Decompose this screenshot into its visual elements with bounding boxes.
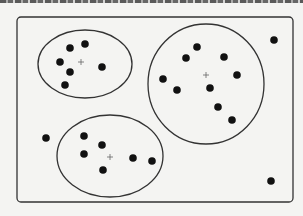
- data-point: [80, 132, 88, 140]
- data-point: [173, 86, 181, 94]
- data-point: [159, 75, 167, 83]
- diagram-frame: [17, 17, 293, 202]
- outliers-group: [42, 36, 278, 185]
- data-point: [228, 116, 236, 124]
- data-point: [220, 53, 228, 61]
- centroid-plus-icon: [203, 72, 209, 78]
- cluster-boundary: [148, 24, 264, 144]
- data-point: [56, 58, 64, 66]
- data-point: [61, 81, 69, 89]
- clusters-group: [38, 24, 264, 197]
- data-point: [206, 84, 214, 92]
- outlier-point: [270, 36, 278, 44]
- centroid-plus-icon: [107, 154, 113, 160]
- data-point: [99, 166, 107, 174]
- data-point: [81, 40, 89, 48]
- cluster-right: [148, 24, 264, 144]
- data-point: [193, 43, 201, 51]
- outlier-point: [267, 177, 275, 185]
- data-point: [66, 44, 74, 52]
- data-point: [214, 103, 222, 111]
- data-point: [98, 63, 106, 71]
- cluster-top-left: [38, 30, 132, 98]
- data-point: [148, 157, 156, 165]
- data-point: [98, 141, 106, 149]
- centroid-plus-icon: [78, 59, 84, 65]
- data-point: [80, 150, 88, 158]
- data-point: [182, 54, 190, 62]
- clustering-diagram: [0, 0, 303, 216]
- data-point: [129, 154, 137, 162]
- outlier-point: [42, 134, 50, 142]
- cluster-bottom: [57, 115, 163, 197]
- data-point: [66, 68, 74, 76]
- data-point: [233, 71, 241, 79]
